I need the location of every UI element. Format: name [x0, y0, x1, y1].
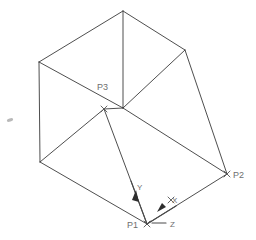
- edge-p3-to-center-mid: [104, 108, 123, 109]
- label-axis-z: Z: [170, 220, 175, 229]
- speck-artifact: [6, 117, 13, 122]
- label-p1: P1: [127, 220, 138, 230]
- edge-right-top-to-center-mid: [123, 50, 185, 108]
- edge-center-mid-to-p2: [123, 108, 227, 174]
- edge-apex-to-left-top: [39, 11, 123, 62]
- wireframe-svg: P3 P2 P1 Y X Z: [0, 0, 256, 240]
- drawing-canvas: P3 P2 P1 Y X Z: [0, 0, 256, 240]
- edge-left-vertical: [39, 62, 40, 162]
- label-p3: P3: [97, 82, 108, 92]
- p2-marker-x[interactable]: [224, 171, 230, 177]
- edge-apex-to-right-top: [123, 11, 185, 50]
- x-axis-arrowhead: [157, 203, 166, 212]
- edge-right-top-to-p2: [185, 50, 227, 174]
- edge-left-top-to-center-mid: [39, 62, 123, 108]
- label-axis-x: X: [172, 196, 178, 205]
- box-wireframe: [39, 11, 227, 224]
- edge-left-bottom-to-p3: [40, 109, 104, 162]
- label-p2: P2: [233, 170, 244, 180]
- edge-left-bottom-to-p1: [40, 162, 147, 224]
- label-axis-y: Y: [137, 183, 143, 192]
